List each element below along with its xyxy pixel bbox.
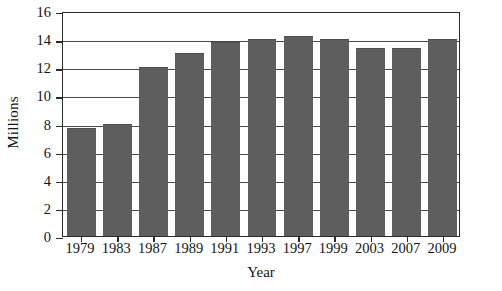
y-axis-tick xyxy=(56,41,63,42)
x-axis-tick-label: 1979 xyxy=(66,241,95,256)
x-axis-tick-label: 1993 xyxy=(247,241,276,256)
bar xyxy=(67,128,96,236)
plot-inner xyxy=(63,13,459,236)
y-axis-tick-label: 16 xyxy=(37,5,52,20)
y-axis-tick-label: 10 xyxy=(37,89,52,104)
y-axis-tick xyxy=(56,69,63,70)
y-axis-title-label: Millions xyxy=(5,96,22,148)
x-axis-title: Year xyxy=(62,264,460,281)
y-axis-tick xyxy=(56,97,63,98)
y-axis-title: Millions xyxy=(0,0,26,245)
x-axis-title-label: Year xyxy=(247,264,275,280)
y-axis-tick xyxy=(56,182,63,183)
y-axis-tick-label: 6 xyxy=(44,145,51,160)
x-axis-tick-label: 2003 xyxy=(355,241,384,256)
y-axis-tick-label: 4 xyxy=(44,174,51,189)
y-axis-tick xyxy=(56,210,63,211)
bar-chart: Millions 1614121086420 19791983198719891… xyxy=(0,0,502,291)
x-axis-tick-label: 2007 xyxy=(391,241,420,256)
bar xyxy=(175,53,204,236)
plot-area xyxy=(62,12,460,237)
bar xyxy=(211,42,240,236)
y-axis-tick-label: 2 xyxy=(44,202,51,217)
bar xyxy=(356,48,385,236)
bar xyxy=(320,39,349,236)
y-axis-tick-label: 8 xyxy=(44,117,51,132)
bar xyxy=(248,39,277,236)
x-axis-tick-label: 1989 xyxy=(174,241,203,256)
bar xyxy=(103,124,132,237)
x-axis-tick-label: 1991 xyxy=(210,241,239,256)
x-axis-tick-label: 1987 xyxy=(138,241,167,256)
x-axis-tick-label: 1983 xyxy=(102,241,131,256)
x-axis-tick-label: 1999 xyxy=(319,241,348,256)
x-axis-tick-labels: 1979198319871989199119931997199920032007… xyxy=(62,241,460,263)
x-axis-tick-label: 2009 xyxy=(427,241,456,256)
bar xyxy=(392,48,421,236)
bar xyxy=(139,67,168,236)
y-axis-tick-label: 12 xyxy=(37,61,52,76)
bar xyxy=(284,36,313,236)
x-axis-tick-label: 1997 xyxy=(283,241,312,256)
y-axis-tick xyxy=(56,13,63,14)
y-axis-tick-label: 14 xyxy=(37,33,52,48)
y-axis-tick-label: 0 xyxy=(44,230,51,245)
y-axis-tick xyxy=(56,238,63,239)
bar xyxy=(428,39,457,236)
y-axis-tick xyxy=(56,126,63,127)
y-axis-tick-labels: 1614121086420 xyxy=(26,0,54,245)
bars-layer xyxy=(63,13,459,236)
y-axis-tick xyxy=(56,154,63,155)
